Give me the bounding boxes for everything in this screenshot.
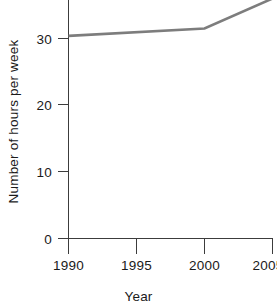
y-tick-label-20: 20 — [22, 97, 52, 112]
y-axis-title: Number of hours per week — [4, 16, 24, 226]
data-series-line — [69, 0, 273, 36]
x-tick-label-1995: 1995 — [121, 258, 152, 273]
y-axis-title-text: Number of hours per week — [7, 39, 22, 203]
x-tick-label-2005: 2005 — [253, 258, 277, 273]
y-tick-label-10: 10 — [22, 164, 52, 179]
line-chart: 0 10 20 30 1990 1995 2000 2005 Year Numb… — [0, 0, 277, 308]
x-tick-label-2000: 2000 — [189, 258, 220, 273]
y-tick-label-0: 0 — [22, 231, 52, 246]
y-tick-label-30: 30 — [22, 31, 52, 46]
x-axis-title: Year — [0, 289, 277, 304]
x-tick-label-1990: 1990 — [53, 258, 84, 273]
